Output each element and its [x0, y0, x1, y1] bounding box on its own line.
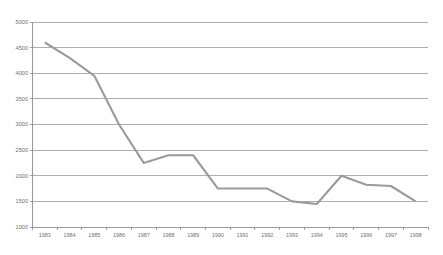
xtick-label-1983: 1983: [39, 232, 51, 238]
ytick-label-4500: 4500: [16, 45, 28, 51]
ytick-label-2500: 2500: [16, 147, 28, 153]
xtick-label-1984: 1984: [64, 232, 76, 238]
ytick-label-5000: 5000: [16, 19, 28, 25]
ytick-label-1000: 1000: [16, 224, 28, 230]
ytick-label-2000: 2000: [16, 173, 28, 179]
ytick-label-3000: 3000: [16, 121, 28, 127]
data-series-line: [45, 43, 416, 204]
xtick-label-1987: 1987: [138, 232, 150, 238]
xtick-label-1985: 1985: [88, 232, 100, 238]
xtick-label-1995: 1995: [335, 232, 347, 238]
xtick-label-1998: 1998: [410, 232, 422, 238]
ytick-label-3500: 3500: [16, 96, 28, 102]
xtick-label-1992: 1992: [261, 232, 273, 238]
line-chart: 1000150020002500300035004000450050001983…: [0, 0, 443, 255]
xtick-label-1991: 1991: [237, 232, 249, 238]
xtick-label-1996: 1996: [360, 232, 372, 238]
xtick-label-1989: 1989: [187, 232, 199, 238]
chart-plot-area: 1000150020002500300035004000450050001983…: [0, 0, 443, 255]
ytick-label-1500: 1500: [16, 198, 28, 204]
xtick-label-1990: 1990: [212, 232, 224, 238]
xtick-label-1993: 1993: [286, 232, 298, 238]
xtick-label-1988: 1988: [162, 232, 174, 238]
xtick-label-1986: 1986: [113, 232, 125, 238]
xtick-label-1994: 1994: [311, 232, 323, 238]
xtick-label-1997: 1997: [385, 232, 397, 238]
ytick-label-4000: 4000: [16, 70, 28, 76]
